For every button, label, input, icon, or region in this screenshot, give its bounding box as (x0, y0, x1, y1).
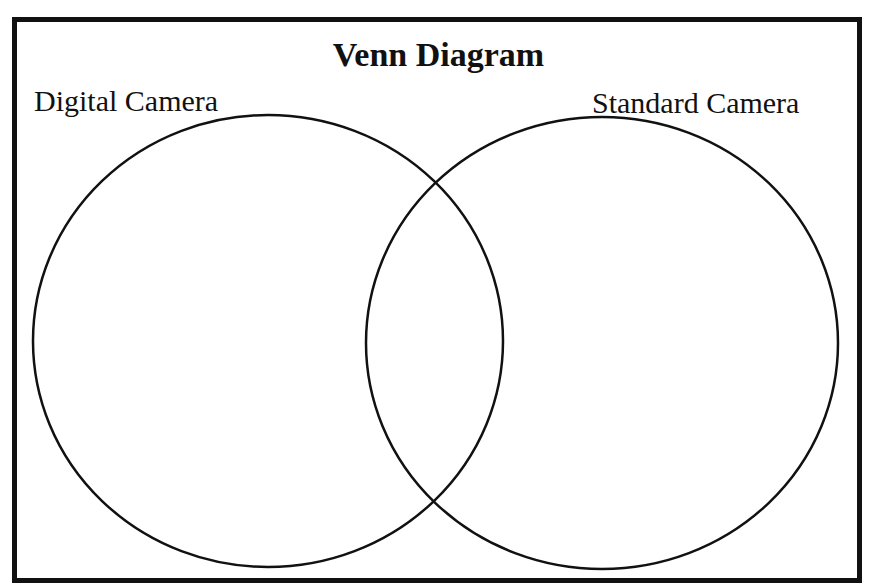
venn-circles (0, 0, 877, 584)
